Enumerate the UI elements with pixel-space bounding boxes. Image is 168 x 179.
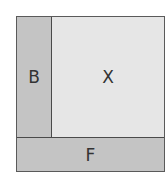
- region-b-label: B: [28, 67, 40, 87]
- region-x-label: X: [102, 67, 114, 87]
- region-f-label: F: [86, 145, 96, 165]
- region-f: F: [17, 137, 164, 171]
- layout-diagram: B X F: [16, 16, 165, 172]
- region-x: X: [52, 17, 164, 137]
- region-b: B: [17, 17, 52, 137]
